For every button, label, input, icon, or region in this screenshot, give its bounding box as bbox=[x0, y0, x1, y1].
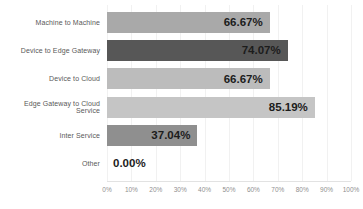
value-label: 0.00% bbox=[113, 153, 146, 174]
x-tick-label: 90% bbox=[320, 186, 333, 193]
category-label: Machine to Machine bbox=[0, 19, 100, 26]
category-label: Device to Edge Gateway bbox=[0, 47, 100, 54]
x-tick-label: 100% bbox=[343, 186, 360, 193]
bar: 37.04% bbox=[107, 125, 197, 146]
bar-rows: Machine to Machine66.67%Device to Edge G… bbox=[0, 8, 351, 178]
bar-area: 85.19% bbox=[107, 97, 351, 118]
value-label: 66.67% bbox=[224, 73, 270, 85]
bar-row: Other0.00% bbox=[0, 150, 351, 178]
x-tick-label: 10% bbox=[125, 186, 138, 193]
bar-row: Inter Service37.04% bbox=[0, 121, 351, 149]
bar-area: 74.07% bbox=[107, 40, 351, 61]
x-tick-label: 80% bbox=[296, 186, 309, 193]
bar: 66.67% bbox=[107, 68, 270, 89]
value-label: 74.07% bbox=[242, 44, 288, 56]
x-axis: 0%10%20%30%40%50%60%70%80%90%100% bbox=[107, 181, 351, 198]
bar-chart: Machine to Machine66.67%Device to Edge G… bbox=[0, 0, 363, 209]
value-label: 85.19% bbox=[269, 101, 315, 113]
x-tick-label: 0% bbox=[102, 186, 111, 193]
bar-area: 37.04% bbox=[107, 125, 351, 146]
category-label: Other bbox=[0, 160, 100, 167]
bar-row: Edge Gateway to Cloud Service85.19% bbox=[0, 93, 351, 121]
category-label: Device to Cloud bbox=[0, 75, 100, 82]
x-tick-label: 60% bbox=[247, 186, 260, 193]
bar-area: 0.00% bbox=[107, 153, 351, 174]
bar: 85.19% bbox=[107, 97, 315, 118]
bar: 74.07% bbox=[107, 40, 288, 61]
bar-row: Device to Cloud66.67% bbox=[0, 65, 351, 93]
x-tick-label: 50% bbox=[222, 186, 235, 193]
bar-area: 66.67% bbox=[107, 68, 351, 89]
bar: 66.67% bbox=[107, 12, 270, 33]
x-tick-label: 20% bbox=[149, 186, 162, 193]
x-tick-label: 70% bbox=[271, 186, 284, 193]
value-label: 37.04% bbox=[151, 129, 197, 141]
bar-row: Device to Edge Gateway74.07% bbox=[0, 36, 351, 64]
x-tick-label: 40% bbox=[198, 186, 211, 193]
x-tick-label: 30% bbox=[174, 186, 187, 193]
category-label: Edge Gateway to Cloud Service bbox=[0, 100, 100, 114]
value-label: 66.67% bbox=[224, 16, 270, 28]
bar-area: 66.67% bbox=[107, 12, 351, 33]
category-label: Inter Service bbox=[0, 132, 100, 139]
bar-row: Machine to Machine66.67% bbox=[0, 8, 351, 36]
gridline bbox=[351, 5, 352, 181]
